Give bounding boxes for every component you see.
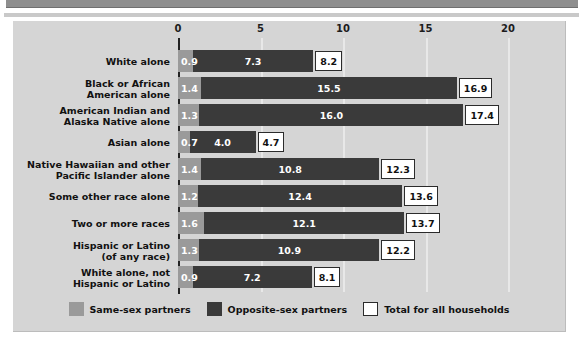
- category-label-line: Asian alone: [108, 137, 170, 148]
- stacked-bar: 1.212.4: [178, 185, 402, 207]
- x-axis-tick-mark-20: [508, 38, 510, 48]
- category-label: Hispanic or Latino(of any race): [13, 237, 175, 264]
- legend-label: Same-sex partners: [90, 304, 191, 315]
- value-label-same-sex: 1.3: [178, 104, 200, 126]
- value-label-same-sex: 1.6: [178, 212, 204, 234]
- stacked-bar: 1.415.5: [178, 77, 457, 99]
- value-label-opposite-sex: 4.0: [190, 131, 256, 153]
- chart-row: American Indian andAlaska Native alone1.…: [13, 102, 565, 129]
- legend-swatch-opposite-sex: [207, 302, 222, 316]
- chart-row: Asian alone0.74.04.7: [13, 129, 565, 156]
- category-label-line: Some other race alone: [49, 191, 170, 202]
- value-label-same-sex: 1.3: [178, 239, 200, 261]
- category-label-line: White alone: [106, 56, 170, 67]
- chart-row: Some other race alone1.212.413.6: [13, 183, 565, 210]
- chart-row: Two or more races1.612.113.7: [13, 210, 565, 237]
- x-axis-tick-labels: 05101520: [13, 21, 565, 48]
- value-label-opposite-sex: 7.3: [193, 50, 313, 72]
- chart-row: White alone, notHispanic or Latino0.97.2…: [13, 264, 565, 291]
- value-label-same-sex: 1.4: [178, 77, 201, 99]
- value-label-opposite-sex: 10.9: [199, 239, 379, 261]
- value-label-opposite-sex: 7.2: [193, 266, 312, 288]
- category-label-line: Native Hawaiian and other: [27, 159, 170, 170]
- top-divider-bar: [4, 13, 579, 17]
- category-label-line: Hispanic or Latino: [73, 278, 170, 289]
- stacked-bar: 0.97.3: [178, 50, 313, 72]
- category-label-line: American alone: [87, 89, 170, 100]
- x-axis-tick-20: 20: [501, 23, 515, 34]
- value-label-opposite-sex: 10.8: [201, 158, 379, 180]
- category-label: Black or AfricanAmerican alone: [13, 75, 175, 102]
- legend-swatch-same-sex: [69, 302, 84, 316]
- category-label-line: American Indian and: [59, 105, 170, 116]
- legend-item[interactable]: Same-sex partners: [69, 302, 191, 316]
- category-label-line: Pacific Islander alone: [56, 170, 170, 181]
- category-label: Asian alone: [13, 129, 175, 156]
- category-label-line: Black or African: [85, 78, 170, 89]
- value-label-same-sex: 1.2: [178, 185, 200, 207]
- x-axis-tick-15: 15: [419, 23, 433, 34]
- category-label: American Indian andAlaska Native alone: [13, 102, 175, 129]
- value-label-total: 16.9: [459, 78, 492, 98]
- top-header-bar: [6, 0, 578, 8]
- stacked-bar: 0.74.0: [178, 131, 256, 153]
- value-label-total: 12.2: [381, 240, 414, 260]
- category-label-line: Two or more races: [72, 218, 170, 229]
- category-label: White alone, notHispanic or Latino: [13, 264, 175, 291]
- legend-item[interactable]: Opposite-sex partners: [207, 302, 348, 316]
- category-label-line: Alaska Native alone: [64, 116, 170, 127]
- category-label: Two or more races: [13, 210, 175, 237]
- stacked-bar: 1.410.8: [178, 158, 379, 180]
- chart-panel: 05101520 White alone0.97.38.2Black or Af…: [13, 21, 566, 332]
- stacked-bar: 1.612.1: [178, 212, 404, 234]
- category-label: Native Hawaiian and otherPacific Islande…: [13, 156, 175, 183]
- chart-row: Black or AfricanAmerican alone1.415.516.…: [13, 75, 565, 102]
- value-label-total: 4.7: [258, 132, 285, 152]
- value-label-opposite-sex: 12.1: [204, 212, 404, 234]
- chart-legend: Same-sex partnersOpposite-sex partnersTo…: [13, 298, 565, 320]
- category-label: Some other race alone: [13, 183, 175, 210]
- value-label-opposite-sex: 16.0: [199, 104, 463, 126]
- chart-row: Native Hawaiian and otherPacific Islande…: [13, 156, 565, 183]
- legend-item[interactable]: Total for all households: [363, 302, 509, 316]
- value-label-opposite-sex: 15.5: [201, 77, 457, 99]
- x-axis-tick-mark-15: [426, 38, 428, 48]
- legend-label: Total for all households: [384, 304, 509, 315]
- legend-label: Opposite-sex partners: [228, 304, 348, 315]
- category-label-line: Hispanic or Latino: [73, 240, 170, 251]
- x-axis-tick-mark-10: [343, 38, 345, 48]
- stacked-bar: 1.310.9: [178, 239, 379, 261]
- category-label-line: (of any race): [102, 251, 171, 262]
- value-label-total: 8.1: [314, 267, 341, 287]
- chart-row: Hispanic or Latino(of any race)1.310.912…: [13, 237, 565, 264]
- chart-row: White alone0.97.38.2: [13, 48, 565, 75]
- category-label-line: White alone, not: [81, 267, 170, 278]
- x-axis-tick-0: 0: [175, 23, 182, 34]
- stacked-bar: 0.97.2: [178, 266, 312, 288]
- value-label-total: 13.6: [404, 186, 437, 206]
- category-label: White alone: [13, 48, 175, 75]
- x-axis-tick-mark-5: [261, 38, 263, 48]
- x-axis-tick-10: 10: [336, 23, 350, 34]
- x-axis-tick-5: 5: [257, 23, 264, 34]
- value-label-total: 13.7: [406, 213, 439, 233]
- stacked-bar: 1.316.0: [178, 104, 463, 126]
- value-label-total: 17.4: [465, 105, 498, 125]
- value-label-opposite-sex: 12.4: [198, 185, 403, 207]
- legend-swatch-total: [363, 302, 378, 316]
- value-label-total: 8.2: [315, 51, 342, 71]
- value-label-total: 12.3: [381, 159, 414, 179]
- value-label-same-sex: 1.4: [178, 158, 201, 180]
